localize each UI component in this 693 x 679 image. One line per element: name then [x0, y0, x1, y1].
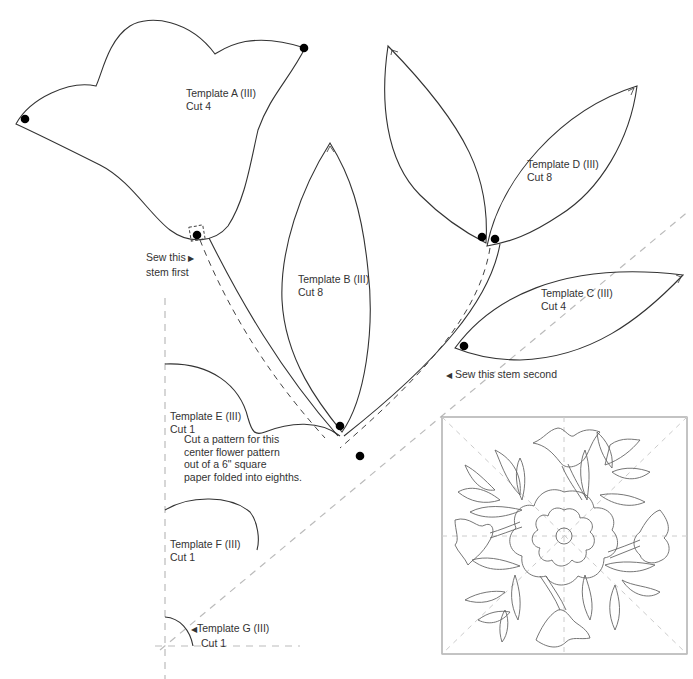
template-g-shape: [165, 617, 193, 646]
stem-first-line1: Sew this: [146, 251, 194, 266]
note-center-instructions: Cut a pattern for this center flower pat…: [184, 433, 302, 483]
template-b-cut: Cut 8: [298, 286, 369, 299]
label-template-a: Template A (III) Cut 4: [186, 87, 256, 112]
block-preview: [442, 417, 687, 654]
dot-c: [460, 342, 469, 351]
template-c-cut: Cut 4: [541, 300, 613, 313]
template-a-name: Template A (III): [186, 87, 256, 100]
label-template-d: Template D (III) Cut 8: [527, 158, 599, 183]
template-a-cut: Cut 4: [186, 100, 256, 113]
center-instructions-line1: Cut a pattern for this: [184, 433, 302, 446]
dot-a2: [300, 44, 309, 53]
center-instructions-line3: out of a 6" square: [184, 458, 302, 471]
template-a-shape: [16, 20, 305, 239]
template-d-leaf-left: [385, 46, 487, 243]
template-e-name: Template E (III): [170, 410, 241, 423]
center-instructions-line2: center flower pattern: [184, 446, 302, 459]
template-f-cut: Cut 1: [170, 551, 241, 564]
label-template-g: Template G (III) Cut 1: [191, 622, 269, 649]
dot-d1: [478, 233, 487, 242]
dot-d2: [491, 235, 500, 244]
template-b-name: Template B (III): [298, 273, 369, 286]
template-c-name: Template C (III): [541, 287, 613, 300]
stem-first-dashed: [200, 240, 325, 438]
stem-second-text: Sew this stem second: [455, 368, 557, 380]
stem-first-line2: stem first: [146, 266, 194, 279]
center-instructions-line4: paper folded into eighths.: [184, 471, 302, 484]
dot-b: [336, 422, 345, 431]
label-template-e: Template E (III) Cut 1: [170, 410, 241, 435]
template-f-name: Template F (III): [170, 538, 241, 551]
stem-first: [209, 238, 338, 436]
template-d-name: Template D (III): [527, 158, 599, 171]
label-template-b: Template B (III) Cut 8: [298, 273, 369, 298]
template-d-cut: Cut 8: [527, 171, 599, 184]
label-template-c: Template C (III) Cut 4: [541, 287, 613, 312]
note-stem-second: Sew this stem second: [446, 368, 557, 383]
dot-a3: [193, 231, 202, 240]
dot-a1: [21, 115, 30, 124]
template-g-cut: Cut 1: [191, 637, 269, 650]
dot-junction: [356, 452, 365, 461]
label-template-f: Template F (III) Cut 1: [170, 538, 241, 563]
template-c-shape: [455, 272, 683, 360]
template-g-name: Template G (III): [191, 622, 269, 637]
template-diagram: [0, 0, 693, 679]
note-stem-first: Sew this stem first: [146, 251, 194, 278]
